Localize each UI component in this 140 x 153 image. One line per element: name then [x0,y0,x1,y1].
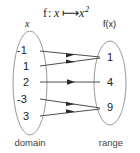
range-elements: 1 4 9 [107,51,113,113]
range-element-2: 9 [107,101,113,113]
mapping-arrow-1-to-1 [40,58,100,66]
domain-element-3: -3 [17,93,27,105]
range-element-0: 1 [107,51,113,63]
domain-element-1: 1 [23,60,29,72]
title-function-name: f [43,6,47,20]
domain-element-2: 2 [23,76,29,88]
title-output-base: x [78,6,85,20]
domain-element-0: -1 [17,44,27,56]
domain-element-4: 3 [23,110,29,122]
mapping-arrow-neg3-to-9 [40,99,100,108]
mapping-arrow-2-to-4 [40,79,100,84]
figure-title: f : x ⟼ x 2 [43,5,89,20]
mapping-diagram: f : x ⟼ x 2 x f(x) [0,0,140,153]
title-output-exponent: 2 [85,5,89,14]
mapping-arrows [40,51,100,116]
domain-header-label: x [24,18,30,29]
domain-caption: domain [14,137,45,148]
title-colon: : [48,6,51,20]
range-element-1: 4 [107,76,113,88]
title-input-variable: x [53,6,60,20]
mapsto-icon: ⟼ [62,6,79,20]
domain-elements: -1 1 2 -3 3 [17,44,29,122]
mapping-arrow-neg1-to-1 [40,51,100,58]
range-header-label: f(x) [103,19,116,29]
mapping-arrow-3-to-9 [40,109,100,116]
function-mapping-figure: f : x ⟼ x 2 x f(x) [0,0,140,153]
range-caption: range [99,137,123,148]
